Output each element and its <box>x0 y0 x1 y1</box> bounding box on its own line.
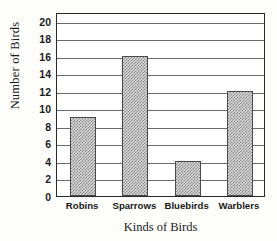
y-axis-tick-labels: 02468101214161820 <box>24 8 51 198</box>
y-tick-label: 2 <box>24 173 51 185</box>
y-tick-label: 20 <box>24 16 51 28</box>
y-tick-label: 8 <box>24 121 51 133</box>
y-tick-label: 18 <box>24 33 51 45</box>
bar <box>122 56 148 196</box>
y-tick-label: 14 <box>24 68 51 80</box>
y-axis-title: Number of Birds <box>8 0 23 136</box>
x-axis-title: Kinds of Birds <box>56 220 265 235</box>
y-tick-label: 0 <box>24 191 51 203</box>
y-tick-label: 10 <box>24 103 51 115</box>
x-tick-label: Robins <box>66 200 99 211</box>
bar <box>175 161 201 196</box>
bar <box>227 91 253 196</box>
bar-chart-figure: Number of Birds 02468101214161820 Robins… <box>0 0 277 241</box>
x-tick-label: Bluebirds <box>165 200 209 211</box>
bar <box>70 117 96 196</box>
y-tick-label: 4 <box>24 156 51 168</box>
x-tick-label: Warblers <box>219 200 260 211</box>
y-tick-label: 16 <box>24 51 51 63</box>
x-tick-label: Sparrows <box>113 200 157 211</box>
plot-area <box>56 13 265 197</box>
y-tick-label: 6 <box>24 138 51 150</box>
bar-series <box>57 14 264 196</box>
x-axis-tick-labels: RobinsSparrowsBluebirdsWarblers <box>56 200 265 215</box>
y-tick-label: 12 <box>24 86 51 98</box>
